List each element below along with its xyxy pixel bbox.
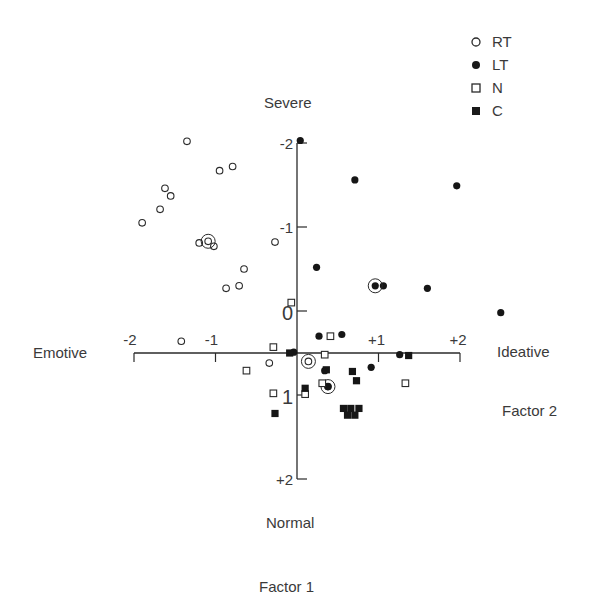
c-point xyxy=(302,385,309,392)
rt-point xyxy=(223,285,230,292)
rt-point xyxy=(272,239,279,246)
c-point xyxy=(353,377,360,384)
legend-label: RT xyxy=(492,33,512,50)
label-normal: Normal xyxy=(266,514,314,531)
c-point xyxy=(405,352,412,359)
rt-point xyxy=(162,185,169,192)
rt-point xyxy=(184,138,191,145)
legend-item-lt: LT xyxy=(470,53,512,76)
n-point xyxy=(321,351,328,358)
lt-point xyxy=(424,285,431,292)
c-point xyxy=(347,405,354,412)
lt-point xyxy=(380,282,387,289)
rt-point xyxy=(241,266,248,273)
tick-labels: -2-1+1+2-2-101+2 xyxy=(123,135,466,488)
n-point xyxy=(243,367,250,374)
legend: RT LT N C xyxy=(470,30,512,122)
lt-point xyxy=(368,364,375,371)
scatter-plot: -2-1+1+2-2-101+2 xyxy=(0,0,612,593)
n-point xyxy=(319,380,326,387)
lt-point xyxy=(372,282,379,289)
legend-label: LT xyxy=(492,56,508,73)
axes xyxy=(134,143,460,479)
x-tick-label: -2 xyxy=(123,331,136,348)
rt-point xyxy=(167,193,174,200)
c-point xyxy=(349,368,356,375)
legend-item-c: C xyxy=(470,99,512,122)
rt-point xyxy=(305,358,312,365)
c-point xyxy=(340,405,347,412)
filled-circle-icon xyxy=(470,59,482,71)
legend-item-rt: RT xyxy=(470,30,512,53)
rt-point xyxy=(229,163,236,170)
y-tick-label: +2 xyxy=(276,471,293,488)
rt-point xyxy=(236,283,243,290)
n-point xyxy=(327,333,334,340)
x-tick-label: +2 xyxy=(449,331,466,348)
c-point xyxy=(344,412,351,419)
label-emotive: Emotive xyxy=(33,344,87,361)
legend-label: C xyxy=(492,102,503,119)
label-ideative: Ideative xyxy=(497,343,550,360)
x-tick-label: -1 xyxy=(205,331,218,348)
n-point xyxy=(402,380,409,387)
rt-point xyxy=(205,238,212,245)
data-points xyxy=(139,137,505,419)
rt-point xyxy=(211,243,218,250)
open-circle-icon xyxy=(470,36,482,48)
n-point xyxy=(270,390,277,397)
y-tick-label: -1 xyxy=(280,219,293,236)
n-point xyxy=(288,299,295,306)
c-point xyxy=(355,405,362,412)
lt-point xyxy=(497,309,504,316)
y-tick-label: 1 xyxy=(282,386,293,408)
c-point xyxy=(271,410,278,417)
lt-point xyxy=(396,351,403,358)
y-tick-label: -2 xyxy=(280,135,293,152)
rt-point xyxy=(157,206,164,213)
legend-label: N xyxy=(492,79,503,96)
lt-point xyxy=(315,333,322,340)
rt-point xyxy=(216,167,223,174)
open-square-icon xyxy=(470,82,482,94)
lt-point xyxy=(351,176,358,183)
lt-point xyxy=(313,264,320,271)
x-tick-label: +1 xyxy=(368,331,385,348)
label-severe: Severe xyxy=(264,94,312,111)
filled-square-icon xyxy=(470,105,482,117)
lt-point xyxy=(297,137,304,144)
c-point xyxy=(351,412,358,419)
lt-point xyxy=(338,331,345,338)
label-factor-1: Factor 1 xyxy=(259,578,314,593)
rt-point xyxy=(139,220,146,227)
label-factor-2: Factor 2 xyxy=(502,402,557,419)
rt-point xyxy=(266,360,273,367)
rt-point xyxy=(178,338,185,345)
c-point xyxy=(323,366,330,373)
lt-point xyxy=(453,182,460,189)
n-point xyxy=(270,344,277,351)
c-point xyxy=(286,349,293,356)
legend-item-n: N xyxy=(470,76,512,99)
